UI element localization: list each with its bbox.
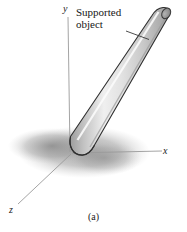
axis-label-y: y [63, 3, 67, 14]
rod-shade-edge [90, 15, 167, 147]
callout-line-2: object [76, 18, 121, 30]
figure-supported-object: y x z Supported object (a) [0, 0, 187, 232]
rod-highlight-stripe [78, 12, 159, 140]
figure-canvas [0, 0, 187, 232]
figure-caption: (a) [0, 211, 187, 222]
callout-line-1: Supported [76, 6, 121, 18]
axis-label-x: x [163, 145, 167, 156]
callout-supported-object: Supported object [76, 6, 121, 31]
